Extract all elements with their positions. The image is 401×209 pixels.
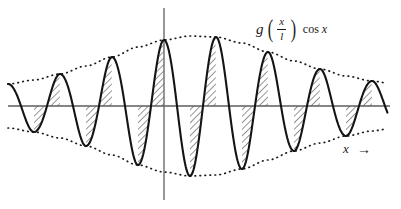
- x-axis-label: x: [343, 142, 349, 155]
- function-label: g ( x l ) cos x: [256, 16, 327, 42]
- function-label-close-paren: ): [291, 19, 296, 40]
- fraction-numerator: x: [277, 16, 286, 28]
- function-label-cos: cos x: [303, 23, 327, 35]
- figure-container: g ( x l ) cos x x →: [0, 0, 401, 209]
- function-label-fraction: x l: [277, 16, 286, 42]
- x-axis-arrow-icon: →: [357, 142, 371, 156]
- cos-argument: x: [322, 22, 327, 36]
- cos-text: cos: [303, 22, 319, 36]
- fraction-denominator: l: [278, 31, 285, 43]
- function-label-g: g: [256, 22, 264, 37]
- function-label-open-paren: (: [267, 19, 272, 40]
- modulated-cosine-plot: [0, 0, 401, 209]
